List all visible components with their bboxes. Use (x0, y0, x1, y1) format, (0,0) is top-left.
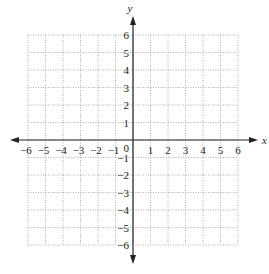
x-tick-label: 3 (183, 144, 189, 156)
y-tick-label: 6 (124, 29, 130, 41)
x-tick-label: 4 (200, 144, 206, 156)
y-tick-label: −4 (117, 204, 129, 216)
x-tick-label: −3 (73, 144, 85, 156)
y-axis-label: y (127, 2, 133, 14)
x-tick-label: 1 (148, 144, 154, 156)
x-tick-label: −2 (90, 144, 102, 156)
x-axis-right-arrow-icon (249, 137, 258, 143)
y-tick-label: 5 (124, 47, 130, 59)
tick-labels: xy−6−5−4−3−2−1123456654321−1−2−3−4−5−60 (20, 2, 267, 251)
y-tick-label: −3 (117, 187, 129, 199)
x-tick-label: −5 (38, 144, 50, 156)
y-tick-label: 2 (124, 99, 130, 111)
y-tick-label: −2 (117, 169, 129, 181)
y-tick-label: 4 (124, 64, 130, 76)
y-axis-bottom-arrow-icon (130, 255, 136, 264)
y-axis-top-arrow-icon (130, 16, 136, 25)
y-tick-label: −6 (117, 239, 129, 251)
origin-label: 0 (124, 142, 130, 154)
y-tick-label: 1 (124, 117, 130, 129)
x-tick-label: −6 (20, 144, 32, 156)
x-tick-label: −4 (55, 144, 67, 156)
y-tick-label: −5 (117, 222, 129, 234)
coordinate-plane: xy−6−5−4−3−2−1123456654321−1−2−3−4−5−60 (0, 0, 269, 274)
x-tick-label: 5 (218, 144, 224, 156)
x-axis-label: x (261, 134, 267, 146)
y-tick-label: 3 (124, 82, 130, 94)
x-tick-label: 6 (235, 144, 241, 156)
x-axis-left-arrow-icon (10, 137, 19, 143)
x-tick-label: 2 (165, 144, 171, 156)
